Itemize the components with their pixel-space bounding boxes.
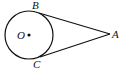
label-b: B	[32, 0, 39, 11]
label-c: C	[33, 58, 41, 68]
geometry-diagram: O B C A	[0, 0, 122, 68]
center-dot	[27, 33, 30, 36]
label-o: O	[17, 29, 25, 41]
label-a: A	[111, 28, 119, 40]
